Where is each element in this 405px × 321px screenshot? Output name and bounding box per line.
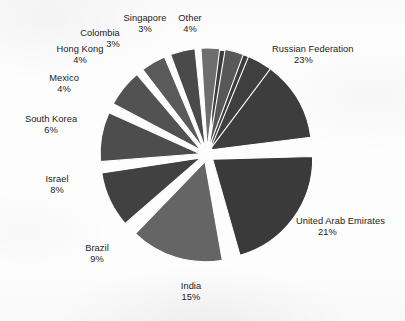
slice-name: Mexico [49, 73, 79, 84]
slice-name: Israel [45, 174, 68, 185]
pie-slice-label: India15% [181, 281, 201, 304]
pie-slice-label: Mexico4% [49, 73, 79, 96]
slice-name: South Korea [25, 114, 77, 125]
pie-slice-label: South Korea6% [25, 114, 77, 137]
slice-percentage: 4% [57, 55, 104, 66]
slice-percentage: 3% [80, 39, 120, 50]
pie-slice-label: Russian Federation23% [272, 44, 354, 67]
slice-name: Other [178, 13, 202, 24]
slice-percentage: 3% [124, 24, 167, 35]
pie-slice[interactable] [213, 157, 313, 256]
slice-percentage: 4% [49, 84, 79, 95]
pie-slice-label: Singapore3% [124, 13, 167, 36]
slice-name: Russian Federation [272, 44, 354, 55]
slice-name: Singapore [124, 13, 167, 24]
slice-percentage: 9% [85, 254, 109, 265]
slice-percentage: 8% [45, 185, 68, 196]
slice-name: India [181, 281, 201, 292]
slice-name: Brazil [85, 243, 109, 254]
slice-percentage: 4% [178, 24, 202, 35]
pie-slice-label: Israel8% [45, 174, 68, 197]
slice-percentage: 15% [181, 292, 201, 303]
slice-name: United Arab Emirates [296, 216, 385, 227]
slice-name: Colombia [80, 28, 120, 39]
pie-slice-label: Brazil9% [85, 243, 109, 266]
slice-percentage: 21% [296, 227, 385, 238]
pie-slice-label: United Arab Emirates21% [296, 216, 385, 239]
slice-percentage: 6% [25, 125, 77, 136]
slice-percentage: 23% [272, 55, 354, 66]
pie-chart-page: Russian Federation23%United Arab Emirate… [0, 0, 405, 321]
pie-slice-label: Other4% [178, 13, 202, 36]
pie-slice-label: Colombia3% [80, 28, 120, 51]
